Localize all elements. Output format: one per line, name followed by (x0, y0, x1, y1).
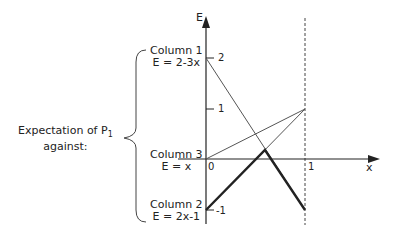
expectation-text: Expectation of P (18, 124, 108, 137)
line-col3 (206, 109, 305, 159)
expectation-subscript: 1 (108, 130, 113, 139)
tick-label-x1: 1 (308, 162, 314, 172)
tick-label-2: 2 (218, 53, 224, 63)
col2-eq: E = 2x-1 (150, 211, 203, 223)
col1-eq: E = 2-3x (150, 57, 203, 69)
expectation-label: Expectation of P1 against: (18, 125, 113, 153)
tick-label-neg1: -1 (216, 206, 226, 216)
tick-label-1: 1 (218, 104, 224, 114)
y-axis-label: E (196, 12, 203, 24)
brace (124, 50, 146, 222)
tick-label-x0: 0 (208, 162, 214, 172)
col1-label: Column 1 E = 2-3x (150, 45, 203, 69)
col2-label: Column 2 E = 2x-1 (150, 199, 203, 223)
col3-eq: E = x (150, 161, 203, 173)
col3-label: Column 3 E = x (150, 149, 203, 173)
x-axis-label: x (366, 162, 373, 174)
expectation-against: against: (18, 141, 113, 153)
y-axis-arrow-icon (202, 16, 210, 28)
